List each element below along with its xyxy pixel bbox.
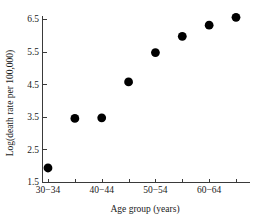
- y-tick-label: 3.5: [27, 112, 39, 122]
- y-axis: 1.52.53.54.55.56.5: [27, 14, 46, 187]
- x-axis: 30−3440−4450−5460−64: [36, 179, 250, 196]
- x-tick-label: 30−34: [36, 185, 61, 195]
- x-tick-label: 60−64: [197, 185, 222, 195]
- data-point: [70, 114, 79, 123]
- x-tick-label: 40−44: [90, 185, 115, 195]
- y-axis-title: Log(death rate per 100,000): [5, 50, 16, 157]
- data-point: [178, 32, 187, 41]
- data-point: [205, 21, 214, 30]
- data-point: [124, 78, 133, 87]
- y-tick-label: 2.5: [27, 145, 39, 155]
- data-point: [151, 48, 160, 57]
- x-tick-label: 50−54: [143, 185, 168, 195]
- data-point: [232, 13, 241, 22]
- y-tick-label: 4.5: [27, 80, 39, 90]
- y-tick-label: 6.5: [27, 14, 39, 24]
- data-point: [97, 113, 106, 122]
- scatter-chart-figure: 1.52.53.54.55.56.5 30−3440−4450−5460−64 …: [0, 0, 256, 220]
- y-tick-label: 5.5: [27, 47, 39, 57]
- data-points: [44, 13, 241, 172]
- chart-plot-area: 1.52.53.54.55.56.5 30−3440−4450−5460−64 …: [0, 0, 256, 220]
- x-axis-title: Age group (years): [110, 204, 179, 215]
- data-point: [44, 164, 53, 173]
